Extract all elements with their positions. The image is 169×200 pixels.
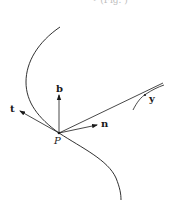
space-curve — [26, 27, 121, 200]
point-p-dot — [58, 132, 61, 135]
binormal-label: b — [56, 84, 63, 94]
point-y-label: y — [149, 94, 155, 104]
tangent-label: t — [10, 104, 15, 114]
normal-vector-arrow — [59, 125, 97, 133]
secant-line-p-to-y — [59, 83, 163, 133]
normal-label: n — [101, 119, 108, 129]
point-p-label: P — [54, 136, 61, 146]
tangent-vector-arrow — [20, 111, 59, 133]
point-y-dot — [144, 94, 146, 96]
frenet-frame-diagram — [0, 0, 169, 200]
